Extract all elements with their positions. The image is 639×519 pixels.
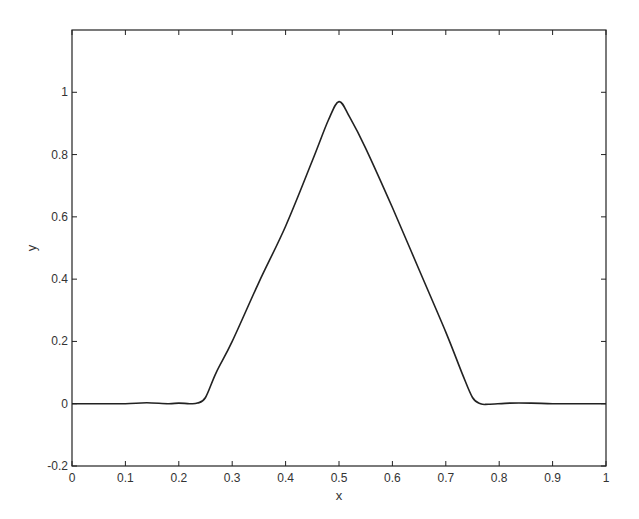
- data-line: [72, 102, 606, 405]
- y-tick-label: 0: [61, 397, 68, 411]
- y-tick-label: 1: [61, 85, 68, 99]
- x-tick-label: 0.9: [544, 471, 561, 485]
- plot-frame: [72, 30, 606, 466]
- x-tick-label: 0.3: [224, 471, 241, 485]
- x-tick-label: 1: [603, 471, 610, 485]
- y-tick-label: 0.6: [51, 210, 68, 224]
- x-axis-label: x: [336, 488, 343, 503]
- x-tick-label: 0.8: [491, 471, 508, 485]
- x-tick-label: 0.5: [331, 471, 348, 485]
- x-tick-label: 0.7: [437, 471, 454, 485]
- x-tick-label: 0.4: [277, 471, 294, 485]
- y-axis-label: y: [24, 244, 39, 251]
- x-tick-label: 0.6: [384, 471, 401, 485]
- tick-labels: 00.10.20.30.40.50.60.70.80.91-0.200.20.4…: [47, 85, 609, 485]
- y-tick-label: 0.2: [51, 334, 68, 348]
- y-tick-label: -0.2: [47, 459, 68, 473]
- y-tick-label: 0.4: [51, 272, 68, 286]
- x-tick-label: 0.2: [170, 471, 187, 485]
- x-tick-label: 0: [69, 471, 76, 485]
- x-tick-label: 0.1: [117, 471, 134, 485]
- axis-ticks: [72, 30, 606, 466]
- y-tick-label: 0.8: [51, 148, 68, 162]
- chart-figure: 00.10.20.30.40.50.60.70.80.91-0.200.20.4…: [0, 0, 639, 519]
